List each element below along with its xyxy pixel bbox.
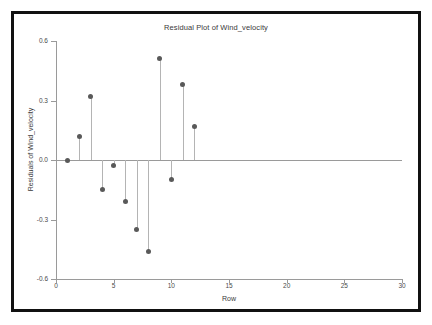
x-tick-label: 0 [44, 282, 68, 289]
data-point-marker [111, 163, 116, 168]
residual-stem [160, 59, 161, 160]
data-point-marker [146, 249, 151, 254]
data-point-marker [134, 227, 139, 232]
x-axis-title: Row [56, 295, 402, 302]
zero-reference-line [56, 160, 402, 161]
data-point-marker [180, 82, 185, 87]
data-point-marker [192, 124, 197, 129]
data-point-marker [157, 56, 162, 61]
y-tick-mark [51, 41, 56, 42]
chart-title: Residual Plot of Wind_velocity [14, 23, 418, 32]
residual-stem [91, 97, 92, 160]
y-tick-mark [51, 220, 56, 221]
y-tick-label: -0.3 [14, 216, 48, 223]
x-tick-label: 20 [275, 282, 299, 289]
residual-plot: Residual Plot of Wind_velocity Residuals… [14, 14, 418, 309]
residual-stem [137, 160, 138, 229]
data-point-marker [169, 177, 174, 182]
x-tick-label: 15 [217, 282, 241, 289]
x-tick-label: 10 [159, 282, 183, 289]
screenshot-root: Residual Plot of Wind_velocity Residuals… [0, 0, 432, 325]
residual-stem [183, 85, 184, 160]
data-point-marker [123, 199, 128, 204]
data-point-marker [65, 158, 70, 163]
image-frame-border: Residual Plot of Wind_velocity Residuals… [11, 11, 421, 312]
residual-stem [194, 126, 195, 160]
residual-stem [79, 136, 80, 160]
y-tick-label: 0.6 [14, 37, 48, 44]
chart-canvas: Residual Plot of Wind_velocity Residuals… [14, 14, 418, 309]
x-tick-label: 25 [332, 282, 356, 289]
y-tick-mark [51, 101, 56, 102]
y-tick-label: 0.0 [14, 156, 48, 163]
y-tick-label: 0.3 [14, 97, 48, 104]
x-tick-label: 5 [102, 282, 126, 289]
data-point-marker [100, 187, 105, 192]
data-point-marker [88, 94, 93, 99]
y-tick-label: -0.6 [14, 275, 48, 282]
y-tick-mark [51, 160, 56, 161]
residual-stem [125, 160, 126, 202]
residual-stem [148, 160, 149, 251]
x-tick-label: 30 [390, 282, 414, 289]
residual-stem [102, 160, 103, 190]
data-point-marker [77, 134, 82, 139]
